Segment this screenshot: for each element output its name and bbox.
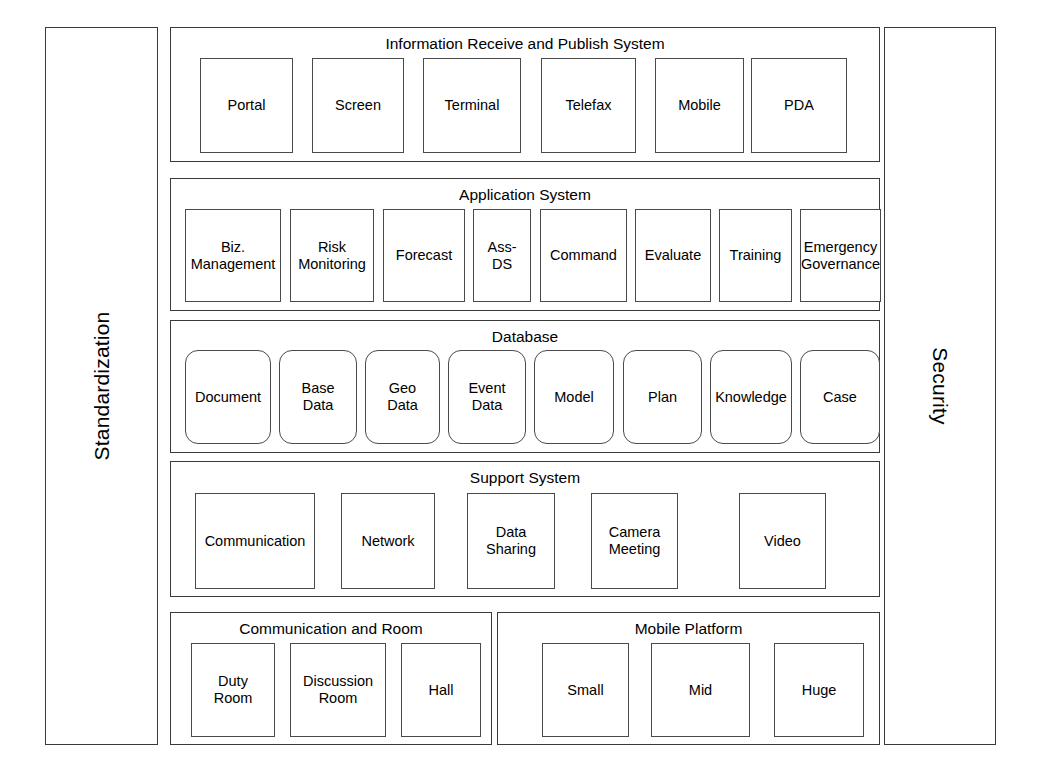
node-base-data[interactable]: Base Data [279, 350, 357, 444]
node-emergency-governance[interactable]: Emergency Governance [800, 209, 881, 302]
node-row-information: PortalScreenTerminalTelefaxMobilePDA [171, 28, 879, 161]
node-evaluate[interactable]: Evaluate [635, 209, 711, 302]
layer-database: Database DocumentBase DataGeo DataEvent … [170, 320, 880, 453]
node-hall[interactable]: Hall [401, 643, 481, 737]
node-forecast[interactable]: Forecast [383, 209, 465, 302]
node-plan[interactable]: Plan [623, 350, 702, 444]
node-ass-ds[interactable]: Ass- DS [473, 209, 531, 302]
node-telefax[interactable]: Telefax [541, 58, 636, 153]
node-row-support: CommunicationNetworkData SharingCamera M… [171, 462, 879, 596]
node-case[interactable]: Case [800, 350, 880, 444]
panel-mobile-platform: Mobile Platform SmallMidHuge [497, 612, 880, 745]
panel-communication-and-room: Communication and Room Duty RoomDiscussi… [170, 612, 492, 745]
node-data-sharing[interactable]: Data Sharing [467, 493, 555, 589]
node-row-mobile-platform: SmallMidHuge [498, 613, 879, 744]
node-discussion-room[interactable]: Discussion Room [290, 643, 386, 737]
node-duty-room[interactable]: Duty Room [191, 643, 275, 737]
node-terminal[interactable]: Terminal [423, 58, 521, 153]
node-biz-management[interactable]: Biz. Management [185, 209, 281, 302]
pillar-standardization: Standardization [45, 27, 158, 745]
node-communication[interactable]: Communication [195, 493, 315, 589]
architecture-diagram: Standardization Security Information Rec… [0, 0, 1041, 783]
node-small[interactable]: Small [542, 643, 629, 737]
node-row-database: DocumentBase DataGeo DataEvent DataModel… [171, 321, 879, 452]
node-row-communication-and-room: Duty RoomDiscussion RoomHall [171, 613, 491, 744]
layer-application-system: Application System Biz. ManagementRisk M… [170, 178, 880, 311]
node-command[interactable]: Command [540, 209, 627, 302]
node-training[interactable]: Training [719, 209, 792, 302]
pillar-security: Security [884, 27, 996, 745]
node-portal[interactable]: Portal [200, 58, 293, 153]
node-screen[interactable]: Screen [312, 58, 404, 153]
pillar-security-label: Security [928, 347, 952, 424]
node-model[interactable]: Model [534, 350, 614, 444]
node-event-data[interactable]: Event Data [448, 350, 526, 444]
node-geo-data[interactable]: Geo Data [365, 350, 440, 444]
node-row-application: Biz. ManagementRisk MonitoringForecastAs… [171, 179, 879, 310]
node-mobile[interactable]: Mobile [655, 58, 744, 153]
node-huge[interactable]: Huge [774, 643, 864, 737]
pillar-standardization-label: Standardization [90, 312, 114, 461]
node-camera-meeting[interactable]: Camera Meeting [591, 493, 678, 589]
node-risk-monitoring[interactable]: Risk Monitoring [290, 209, 374, 302]
node-network[interactable]: Network [341, 493, 435, 589]
node-mid[interactable]: Mid [651, 643, 750, 737]
layer-information-receive-and-publish-system: Information Receive and Publish System P… [170, 27, 880, 162]
node-pda[interactable]: PDA [751, 58, 847, 153]
node-video[interactable]: Video [739, 493, 826, 589]
node-document[interactable]: Document [185, 350, 271, 444]
layer-support-system: Support System CommunicationNetworkData … [170, 461, 880, 597]
node-knowledge[interactable]: Knowledge [710, 350, 792, 444]
